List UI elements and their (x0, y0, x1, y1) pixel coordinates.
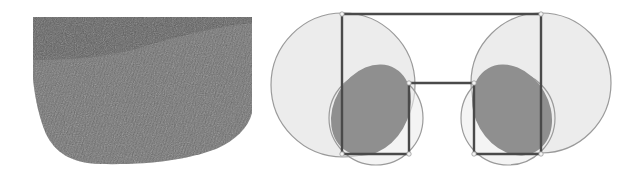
vertex-marker (407, 81, 411, 85)
textured-band-render (33, 17, 252, 164)
vertex-marker (472, 81, 476, 85)
vertex-marker (539, 12, 543, 16)
vertex-marker (340, 152, 344, 156)
vertex-marker (539, 152, 543, 156)
vertex-marker (340, 12, 344, 16)
figure-canvas (0, 0, 631, 175)
vertex-marker (472, 152, 476, 156)
large-circles (271, 13, 611, 157)
geometry-diagram (271, 12, 611, 170)
vertex-marker (407, 152, 411, 156)
